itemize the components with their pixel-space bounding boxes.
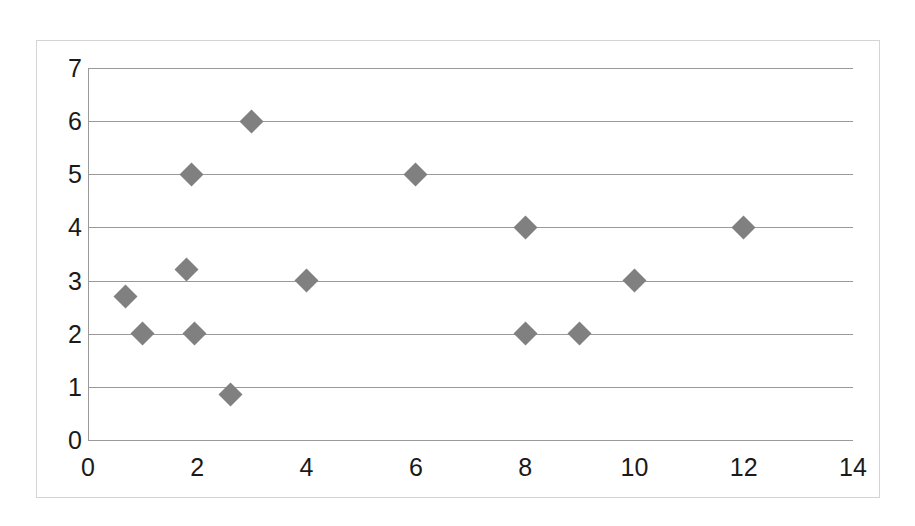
gridline-y-0 [88,440,853,441]
y-axis-tick-labels: 01234567 [36,68,82,440]
x-tick-label: 2 [167,455,227,480]
y-tick-label: 0 [38,428,82,453]
data-point-marker[interactable] [513,322,537,346]
gridline-y-7 [88,68,853,69]
y-tick-label: 6 [38,109,82,134]
data-point-marker[interactable] [568,322,592,346]
data-point-marker[interactable] [622,269,646,293]
data-point-marker[interactable] [131,322,155,346]
plot-area [88,68,853,440]
x-axis-tick-labels: 02468101214 [88,455,853,495]
x-tick-label: 14 [823,455,883,480]
data-point-marker[interactable] [404,162,428,186]
y-axis-line [88,68,89,440]
y-tick-label: 2 [38,321,82,346]
gridline-y-6 [88,121,853,122]
gridline-y-1 [88,387,853,388]
data-point-marker[interactable] [180,162,204,186]
x-tick-label: 8 [495,455,555,480]
y-tick-label: 3 [38,268,82,293]
y-tick-label: 7 [38,56,82,81]
x-tick-label: 4 [277,455,337,480]
y-tick-label: 4 [38,215,82,240]
data-point-marker[interactable] [513,215,537,239]
x-tick-label: 6 [386,455,446,480]
scatter-chart: 01234567 02468101214 [0,0,915,526]
data-point-marker[interactable] [113,284,137,308]
y-tick-label: 5 [38,162,82,187]
x-tick-label: 0 [58,455,118,480]
y-tick-label: 1 [38,374,82,399]
data-point-marker[interactable] [732,215,756,239]
x-tick-label: 12 [714,455,774,480]
data-point-marker[interactable] [295,269,319,293]
data-point-marker[interactable] [240,109,264,133]
gridline-y-3 [88,281,853,282]
data-point-marker[interactable] [183,322,207,346]
data-point-marker[interactable] [174,258,198,282]
x-tick-label: 10 [604,455,664,480]
